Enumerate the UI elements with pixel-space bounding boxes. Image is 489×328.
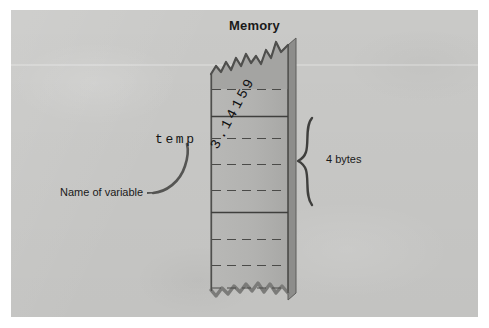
diagram-vector-layer bbox=[0, 0, 489, 328]
variable-name-label: temp bbox=[155, 132, 197, 147]
four-bytes-label: 4 bytes bbox=[326, 153, 361, 165]
name-of-variable-caption: Name of variable bbox=[60, 186, 143, 198]
memory-column bbox=[211, 38, 296, 300]
memory-column-side-face bbox=[288, 38, 296, 300]
variable-name-leader-curve-icon bbox=[153, 144, 188, 193]
memory-diagram-figure: Memory temp Name of variable 3.14159 4 b… bbox=[0, 0, 489, 328]
four-bytes-curly-brace-icon bbox=[298, 118, 312, 205]
memory-title: Memory bbox=[229, 18, 280, 33]
